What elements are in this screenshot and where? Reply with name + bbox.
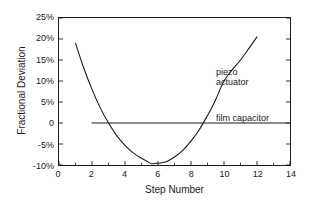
- x-tick-label: 14: [281, 170, 301, 179]
- plot-canvas: [59, 18, 290, 165]
- y-tick-label: -5%: [38, 141, 54, 150]
- y-tick-label: 10%: [36, 77, 54, 86]
- annotation-piezo-actuator: piezo actuator: [216, 67, 249, 87]
- x-tick-label: 12: [248, 170, 268, 179]
- y-tick-label: 15%: [36, 56, 54, 65]
- x-axis-title: Step Number: [58, 184, 291, 195]
- y-tick-label: 5%: [41, 98, 54, 107]
- y-axis-title: Fractional Deviation: [16, 16, 27, 166]
- y-tick-label: 0: [49, 119, 54, 128]
- x-tick-label: 4: [115, 170, 135, 179]
- x-tick-label: 0: [48, 170, 68, 179]
- y-tick-label: 25%: [36, 13, 54, 22]
- x-tick-label: 8: [181, 170, 201, 179]
- x-tick-label: 6: [148, 170, 168, 179]
- x-tick-label: 2: [81, 170, 101, 179]
- data-series-group: [76, 37, 291, 164]
- plot-area: [58, 17, 291, 166]
- x-axis-tick-labels: 02468101214: [0, 170, 309, 184]
- series-line-piezo-actuator: [76, 37, 258, 164]
- chart-figure: -10%-5%05%10%15%20%25% Fractional Deviat…: [0, 0, 309, 204]
- y-tick-label: 20%: [36, 34, 54, 43]
- annotation-film-capacitor: film capacitor: [216, 113, 269, 123]
- x-tick-label: 10: [214, 170, 234, 179]
- x-axis-minor-ticks: [76, 163, 274, 165]
